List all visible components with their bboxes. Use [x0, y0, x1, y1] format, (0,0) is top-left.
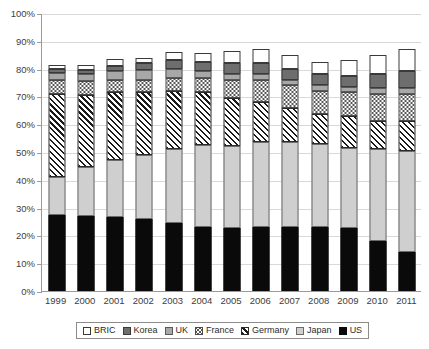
bar-segment-france[interactable] [194, 78, 211, 92]
bar-segment-us[interactable] [311, 227, 328, 291]
bar-segment-germany[interactable] [340, 116, 357, 148]
bar-segment-korea[interactable] [370, 74, 387, 88]
bar-segment-japan[interactable] [48, 177, 65, 215]
bar-segment-germany[interactable] [253, 102, 270, 142]
bar-segment-korea[interactable] [340, 76, 357, 87]
bar-segment-france[interactable] [165, 78, 182, 91]
stacked-bar[interactable] [370, 55, 387, 291]
bar-segment-bric[interactable] [370, 55, 387, 74]
bar-segment-bric[interactable] [107, 59, 124, 66]
legend-item-germany[interactable]: Germany [241, 326, 289, 335]
stacked-bar[interactable] [107, 59, 124, 291]
bar-segment-us[interactable] [370, 241, 387, 291]
bar-segment-us[interactable] [253, 227, 270, 291]
bar-segment-korea[interactable] [399, 71, 416, 88]
bar-segment-japan[interactable] [370, 149, 387, 241]
bar-segment-uk[interactable] [48, 73, 65, 80]
bar-segment-korea[interactable] [282, 69, 299, 80]
stacked-bar[interactable] [399, 49, 416, 291]
bar-segment-us[interactable] [77, 216, 94, 291]
bar-segment-japan[interactable] [194, 145, 211, 227]
bar-segment-korea[interactable] [223, 63, 240, 74]
bar-segment-france[interactable] [399, 94, 416, 122]
bar-segment-us[interactable] [165, 223, 182, 291]
bar-segment-japan[interactable] [340, 148, 357, 229]
stacked-bar[interactable] [311, 62, 328, 291]
bar-segment-uk[interactable] [136, 70, 153, 80]
bar-segment-uk[interactable] [77, 74, 94, 81]
bar-segment-france[interactable] [77, 81, 94, 95]
bar-segment-germany[interactable] [107, 92, 124, 160]
legend-item-bric[interactable]: BRIC [83, 326, 116, 335]
bar-segment-france[interactable] [370, 94, 387, 122]
bar-segment-korea[interactable] [136, 63, 153, 70]
bar-segment-germany[interactable] [399, 121, 416, 150]
bar-segment-bric[interactable] [282, 55, 299, 69]
bar-segment-korea[interactable] [253, 63, 270, 74]
bar-segment-japan[interactable] [77, 167, 94, 216]
bar-segment-france[interactable] [340, 92, 357, 116]
bar-segment-germany[interactable] [370, 121, 387, 149]
bar-segment-germany[interactable] [77, 95, 94, 167]
bar-segment-france[interactable] [48, 80, 65, 94]
bar-segment-japan[interactable] [311, 144, 328, 227]
bar-segment-japan[interactable] [282, 142, 299, 227]
stacked-bar[interactable] [77, 65, 94, 291]
stacked-bar[interactable] [194, 53, 211, 291]
bar-segment-bric[interactable] [399, 49, 416, 71]
bar-segment-bric[interactable] [340, 60, 357, 75]
bar-segment-us[interactable] [194, 227, 211, 291]
bar-segment-us[interactable] [223, 228, 240, 291]
bar-segment-japan[interactable] [136, 155, 153, 219]
bar-segment-us[interactable] [136, 219, 153, 291]
bar-segment-uk[interactable] [165, 69, 182, 79]
legend-item-korea[interactable]: Korea [123, 326, 158, 335]
bar-segment-us[interactable] [340, 228, 357, 291]
bar-segment-japan[interactable] [253, 142, 270, 227]
bar-segment-japan[interactable] [165, 149, 182, 223]
bar-segment-germany[interactable] [282, 108, 299, 143]
bar-segment-bric[interactable] [165, 52, 182, 60]
bar-segment-france[interactable] [223, 80, 240, 98]
legend-item-uk[interactable]: UK [165, 326, 189, 335]
bar-segment-us[interactable] [48, 215, 65, 291]
legend-item-us[interactable]: US [339, 326, 363, 335]
bar-segment-germany[interactable] [311, 114, 328, 143]
y-axis-tick-label: 90% [0, 37, 35, 47]
bar-segment-germany[interactable] [48, 94, 65, 177]
bar-segment-germany[interactable] [136, 92, 153, 155]
stacked-bar[interactable] [282, 55, 299, 291]
bar-segment-korea[interactable] [311, 74, 328, 85]
bar-segment-france[interactable] [253, 80, 270, 102]
bar-slot [130, 14, 159, 291]
bar-segment-bric[interactable] [311, 62, 328, 75]
bar-segment-bric[interactable] [194, 53, 211, 61]
bar-segment-germany[interactable] [223, 98, 240, 147]
bar-segment-uk[interactable] [107, 71, 124, 79]
stacked-bar[interactable] [136, 58, 153, 291]
bar-segment-us[interactable] [107, 217, 124, 291]
bar-segment-japan[interactable] [399, 151, 416, 252]
bar-segment-japan[interactable] [223, 146, 240, 228]
bar-segment-uk[interactable] [194, 71, 211, 78]
bar-segment-japan[interactable] [107, 160, 124, 217]
bar-segment-germany[interactable] [194, 92, 211, 145]
stacked-bar[interactable] [253, 49, 270, 291]
bar-segment-germany[interactable] [165, 91, 182, 149]
stacked-bar[interactable] [165, 52, 182, 291]
stacked-bar[interactable] [223, 51, 240, 291]
bar-segment-france[interactable] [311, 91, 328, 115]
legend-item-japan[interactable]: Japan [296, 326, 332, 335]
legend-item-france[interactable]: France [195, 326, 234, 335]
stacked-bar[interactable] [340, 60, 357, 291]
bar-segment-us[interactable] [399, 252, 416, 291]
bar-segment-france[interactable] [136, 80, 153, 93]
bar-segment-bric[interactable] [223, 51, 240, 64]
bar-segment-korea[interactable] [194, 62, 211, 72]
bar-segment-korea[interactable] [165, 60, 182, 68]
stacked-bar[interactable] [48, 65, 65, 291]
bar-segment-france[interactable] [282, 85, 299, 107]
bar-segment-bric[interactable] [253, 49, 270, 63]
bar-segment-france[interactable] [107, 80, 124, 93]
bar-segment-us[interactable] [282, 227, 299, 291]
